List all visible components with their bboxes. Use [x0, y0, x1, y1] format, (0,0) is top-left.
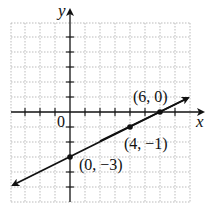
point-label-4-neg1: (4, −1) — [124, 135, 168, 153]
origin-label: 0 — [57, 113, 65, 130]
point-label-6-0: (6, 0) — [133, 88, 168, 106]
x-axis-label: x — [195, 112, 204, 131]
y-axis-label: y — [56, 1, 66, 20]
coordinate-plane: y x 0 (0, −3) (4, −1) (6, 0) — [0, 0, 213, 206]
point-4-neg1 — [127, 124, 133, 130]
point-label-0-neg3: (0, −3) — [79, 156, 123, 174]
point-0-neg3 — [67, 154, 73, 160]
point-6-0 — [157, 109, 163, 115]
